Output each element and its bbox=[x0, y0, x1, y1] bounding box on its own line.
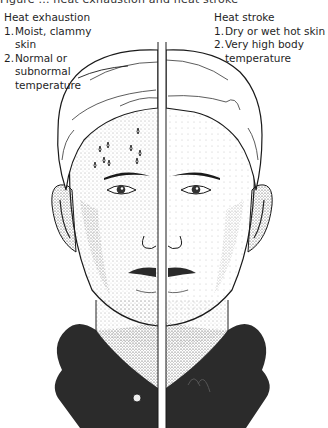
heat-stroke-signs-list: 1. Dry or wet hot skin 2. Very high body… bbox=[214, 25, 326, 66]
heat-stroke-label: Heat stroke 1. Dry or wet hot skin 2. Ve… bbox=[214, 11, 326, 65]
heat-exhaustion-label: Heat exhaustion 1. Moist, clammy skin 2.… bbox=[4, 11, 100, 92]
heat-stroke-title: Heat stroke bbox=[214, 11, 326, 25]
illustration-figure: Figure ... heat exhaustion and heat stro… bbox=[0, 0, 328, 428]
left-ear bbox=[52, 185, 76, 252]
sign-item: 1. Dry or wet hot skin bbox=[214, 25, 326, 39]
center-divider bbox=[158, 42, 166, 428]
shirt-button-icon bbox=[133, 394, 141, 402]
heat-exhaustion-signs-list: 1. Moist, clammy skin 2. Normal or subno… bbox=[4, 25, 100, 93]
sign-item: 1. Moist, clammy skin bbox=[4, 25, 100, 52]
heat-exhaustion-title: Heat exhaustion bbox=[4, 11, 100, 25]
sign-item: 2. Very high body temperature bbox=[214, 38, 326, 65]
right-ear bbox=[248, 185, 272, 252]
sign-item: 2. Normal or subnormal temperature bbox=[4, 52, 100, 93]
